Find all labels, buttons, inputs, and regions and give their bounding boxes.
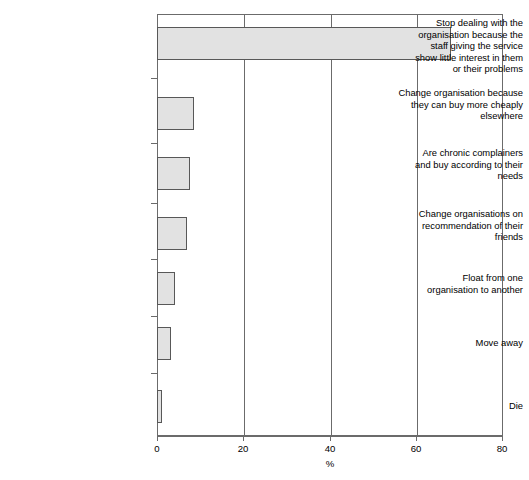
y-tick-1 [151,143,157,144]
category-label-3: Change organisations on recommendation o… [379,208,529,243]
category-label-2: Are chronic complainers and buy accordin… [379,147,529,182]
category-label-1: Change organisation because they can buy… [379,87,529,122]
category-label-6: Die [379,400,529,412]
x-tick-40 [330,436,331,441]
y-tick-2 [151,203,157,204]
y-tick-0 [151,78,157,79]
x-axis-title: % [157,458,503,469]
bar-5[interactable] [157,327,171,360]
bar-1[interactable] [157,97,194,130]
gridline-40 [331,15,332,435]
x-tick-label-40: 40 [310,443,350,454]
gridline-20 [244,15,245,435]
category-label-5: Move away [379,337,529,349]
x-tick-0 [157,436,158,441]
y-tick-3 [151,259,157,260]
y-tick-5 [151,373,157,374]
category-label-0: Stop dealing with the organisation becau… [379,17,529,75]
x-tick-label-20: 20 [223,443,263,454]
category-label-4: Float from one organisation to another [379,272,529,295]
x-tick-label-60: 60 [396,443,436,454]
bar-4[interactable] [157,272,175,305]
x-tick-60 [416,436,417,441]
bar-6[interactable] [157,390,162,423]
x-tick-80 [502,436,503,441]
bar-3[interactable] [157,217,187,250]
bar-chart: Stop dealing with the organisation becau… [0,0,529,480]
x-tick-20 [243,436,244,441]
x-tick-label-80: 80 [482,443,522,454]
x-tick-label-0: 0 [137,443,177,454]
y-tick-4 [151,316,157,317]
bar-2[interactable] [157,157,190,190]
